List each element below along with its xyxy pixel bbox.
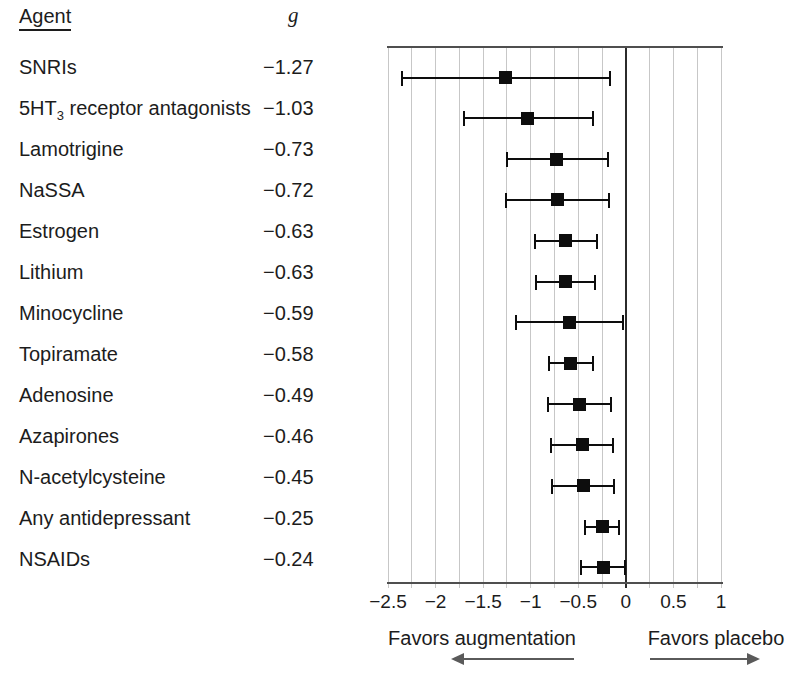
agent-label: SNRIs bbox=[19, 54, 77, 80]
gridline bbox=[673, 47, 674, 588]
ci-cap-high bbox=[596, 234, 598, 249]
g-value: −0.45 bbox=[263, 464, 314, 490]
effect-marker bbox=[550, 153, 563, 166]
ci-cap-low bbox=[580, 560, 582, 575]
gridline bbox=[483, 47, 484, 588]
agent-label: NSAIDs bbox=[19, 546, 90, 572]
agent-label-subscript: 3 bbox=[57, 108, 64, 123]
x-tick-label: −1 bbox=[520, 591, 542, 613]
x-tick-label: 0 bbox=[621, 591, 632, 613]
gridline bbox=[578, 47, 579, 588]
gridline bbox=[459, 47, 460, 588]
agent-column-header: Agent bbox=[19, 5, 71, 31]
g-value: −1.27 bbox=[263, 54, 314, 80]
ci-cap-high bbox=[624, 560, 626, 575]
x-tick-label: −2.5 bbox=[369, 591, 407, 613]
ci-cap-high bbox=[609, 71, 611, 86]
x-tick-label: −2 bbox=[425, 591, 447, 613]
effect-marker bbox=[563, 316, 576, 329]
gridline bbox=[411, 47, 412, 588]
gridline bbox=[554, 47, 555, 588]
left-arrow-line bbox=[463, 658, 574, 660]
gridline bbox=[435, 47, 436, 588]
ci-cap-high bbox=[594, 275, 596, 290]
effect-marker bbox=[564, 357, 577, 370]
gridline bbox=[602, 47, 603, 588]
agent-label: Lamotrigine bbox=[19, 136, 124, 162]
gridline bbox=[697, 47, 698, 588]
effect-marker bbox=[573, 398, 586, 411]
g-value: −0.63 bbox=[263, 218, 314, 244]
effect-marker bbox=[597, 561, 610, 574]
g-value: −0.49 bbox=[263, 382, 314, 408]
ci-cap-low bbox=[548, 356, 550, 371]
agent-label: Minocycline bbox=[19, 300, 123, 326]
ci-cap-low bbox=[505, 193, 507, 208]
forest-plot-figure: Agent g Favors augmentation Favors place… bbox=[0, 0, 812, 683]
ci-cap-low bbox=[534, 234, 536, 249]
ci-cap-low bbox=[401, 71, 403, 86]
x-axis-line bbox=[387, 582, 723, 584]
agent-label-text: receptor antagonists bbox=[64, 97, 251, 119]
g-value: −0.24 bbox=[263, 546, 314, 572]
effect-marker bbox=[499, 71, 512, 84]
agent-label: Any antidepressant bbox=[19, 505, 190, 531]
effect-marker bbox=[551, 193, 564, 206]
ci-cap-high bbox=[608, 193, 610, 208]
ci-cap-low bbox=[584, 520, 586, 535]
agent-label: Adenosine bbox=[19, 382, 114, 408]
ci-cap-high bbox=[612, 438, 614, 453]
g-value: −0.73 bbox=[263, 136, 314, 162]
ci-cap-high bbox=[618, 520, 620, 535]
ci-cap-low bbox=[506, 152, 508, 167]
plot-top-border bbox=[387, 46, 723, 48]
g-value: −1.03 bbox=[263, 95, 314, 121]
g-value: −0.59 bbox=[263, 300, 314, 326]
g-value: −0.72 bbox=[263, 177, 314, 203]
agent-label: NaSSA bbox=[19, 177, 85, 203]
x-tick-label: 1 bbox=[716, 591, 727, 613]
ci-cap-low bbox=[550, 438, 552, 453]
right-arrow-line bbox=[650, 658, 747, 660]
agent-label: Estrogen bbox=[19, 218, 99, 244]
ci-cap-high bbox=[592, 356, 594, 371]
gridline bbox=[530, 47, 531, 588]
g-column-header: g bbox=[288, 3, 299, 28]
ci-cap-high bbox=[610, 397, 612, 412]
agent-label: N-acetylcysteine bbox=[19, 464, 166, 490]
agent-label: 5HT3 receptor antagonists bbox=[19, 95, 251, 121]
gridline bbox=[721, 47, 722, 588]
favors-augmentation-label: Favors augmentation bbox=[388, 627, 576, 650]
x-tick-label: 0.5 bbox=[660, 591, 686, 613]
g-value: −0.63 bbox=[263, 259, 314, 285]
agent-label: Lithium bbox=[19, 259, 83, 285]
g-value: −0.58 bbox=[263, 341, 314, 367]
ci-cap-low bbox=[535, 275, 537, 290]
ci-cap-high bbox=[607, 152, 609, 167]
gridline bbox=[388, 47, 389, 588]
g-value: −0.25 bbox=[263, 505, 314, 531]
ci-cap-low bbox=[463, 111, 465, 126]
ci-cap-high bbox=[622, 315, 624, 330]
effect-marker bbox=[559, 275, 572, 288]
effect-marker bbox=[596, 520, 609, 533]
ci-cap-low bbox=[551, 479, 553, 494]
agent-label-text: 5HT bbox=[19, 97, 57, 119]
right-arrow-icon bbox=[747, 653, 760, 665]
ci-cap-high bbox=[592, 111, 594, 126]
gridline bbox=[506, 47, 507, 588]
agent-label: Topiramate bbox=[19, 341, 118, 367]
effect-marker bbox=[576, 438, 589, 451]
effect-marker bbox=[577, 479, 590, 492]
g-value: −0.46 bbox=[263, 423, 314, 449]
x-tick-label: −0.5 bbox=[560, 591, 598, 613]
x-tick-label: −1.5 bbox=[464, 591, 502, 613]
ci-cap-low bbox=[515, 315, 517, 330]
effect-marker bbox=[521, 112, 534, 125]
ci-cap-high bbox=[613, 479, 615, 494]
zero-reference-line bbox=[625, 47, 627, 588]
gridline bbox=[649, 47, 650, 588]
favors-placebo-label: Favors placebo bbox=[648, 627, 785, 650]
agent-label: Azapirones bbox=[19, 423, 119, 449]
effect-marker bbox=[559, 234, 572, 247]
